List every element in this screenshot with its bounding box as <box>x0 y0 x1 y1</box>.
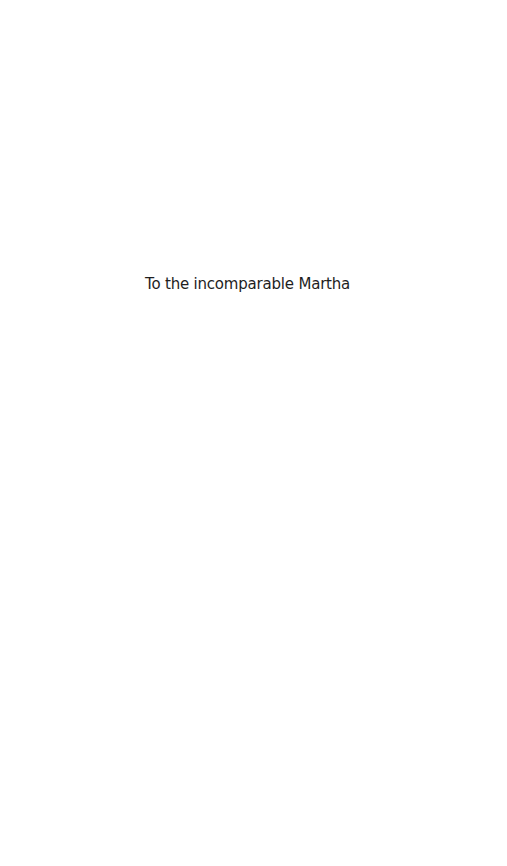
dedication-page: To the incomparable Martha <box>0 0 507 866</box>
dedication-text: To the incomparable Martha <box>145 274 350 294</box>
